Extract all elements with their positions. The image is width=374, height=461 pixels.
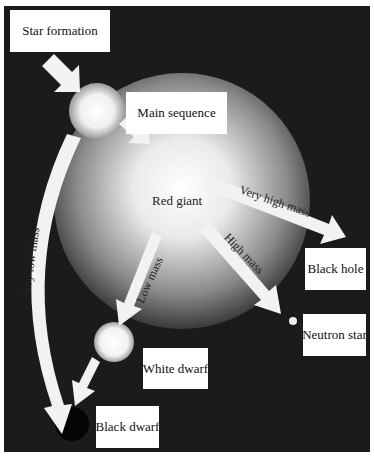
node-white-dwarf: White dwarf xyxy=(143,348,208,389)
node-label: Main sequence xyxy=(137,105,215,121)
white-dwarf-sphere xyxy=(94,322,134,362)
node-label: Red giant xyxy=(152,193,202,208)
neutron-star-dot xyxy=(289,317,297,325)
node-label: Black hole xyxy=(308,261,364,277)
node-black-dwarf: Black dwarf xyxy=(96,406,159,448)
node-neutron-star: Neutron star xyxy=(303,314,366,356)
node-red-giant: Red giant xyxy=(152,193,202,209)
node-star-formation: Star formation xyxy=(10,10,110,52)
node-label: Neutron star xyxy=(302,327,367,343)
node-black-hole: Black hole xyxy=(305,248,366,290)
node-label: Star formation xyxy=(22,23,97,39)
node-label: White dwarf xyxy=(143,361,208,377)
diagram-canvas: Star formation Main sequence Red giant B… xyxy=(4,6,370,452)
node-main-sequence: Main sequence xyxy=(126,92,227,134)
node-label: Black dwarf xyxy=(96,419,160,435)
